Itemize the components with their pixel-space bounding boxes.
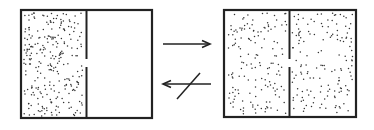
gas-particles-left-half bbox=[228, 13, 288, 115]
reverse-arrow-crossed bbox=[163, 73, 211, 99]
gas-expansion-diagram bbox=[0, 0, 374, 130]
gas-particles-right-half bbox=[292, 13, 354, 114]
final-state-box bbox=[224, 10, 356, 117]
strike-through-icon bbox=[177, 73, 200, 99]
forward-arrow bbox=[163, 41, 210, 48]
gas-particles-left-half bbox=[23, 12, 83, 116]
initial-state-box bbox=[21, 10, 152, 118]
